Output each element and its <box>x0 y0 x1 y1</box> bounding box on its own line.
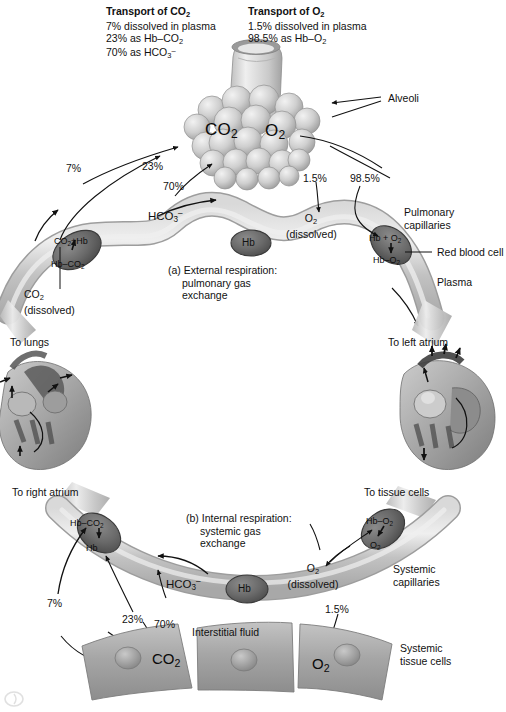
pct-98-5-upper: 98.5% <box>350 172 380 185</box>
o2-fact-2: 98.5% as Hb–O2 <box>248 32 326 48</box>
rbc-lower-left-bottom: Hb <box>86 543 98 553</box>
gas-label-o2: O2 <box>265 121 285 142</box>
to-left-atrium-label: To left atrium <box>388 336 448 349</box>
rbc-lower-right-top: Hb–O2 <box>366 516 393 527</box>
interstitial-fluid-label: Interstitial fluid <box>192 626 259 639</box>
co2-fact-3: 70% as HCO3– <box>106 45 176 63</box>
pct-70-upper: 70% <box>163 180 184 193</box>
respiration-diagram: Transport of CO2 Transport of O2 7% diss… <box>0 0 506 712</box>
rbc-upper-right-top: Hb + O2 <box>369 233 401 244</box>
title-transport-o2: Transport of O2 <box>248 5 324 21</box>
to-right-atrium-label: To right atrium <box>12 486 79 499</box>
gas-label-co2: CO2 <box>205 120 238 141</box>
o2-fact-1: 1.5% dissolved in plasma <box>248 20 366 33</box>
pct-70-lower: 70% <box>154 618 175 631</box>
bicarbonate-upper: HCO3– <box>148 208 183 226</box>
rbc-upper-left-top: CO2+Hb <box>54 236 88 247</box>
rbc-upper-right-bottom: Hb–O2 <box>373 255 400 266</box>
pct-7-upper: 7% <box>66 162 81 175</box>
corner-mark-graphic <box>5 692 23 706</box>
tissue-o2-label: O2 <box>312 655 330 674</box>
rbc-lower-left-top: Hb–CO2 <box>70 518 104 529</box>
red-blood-cell-label: Red blood cell <box>437 246 504 259</box>
rbc-upper-left-bottom: Hb–CO2 <box>51 259 85 270</box>
heart-right-graphic <box>400 344 495 470</box>
rbc-lower-right-bottom: O2 <box>370 540 381 551</box>
rbc-upper-center-label: Hb <box>242 237 255 248</box>
o2-dissolved-lower: O2(dissolved) <box>286 562 340 591</box>
diagram-graphics <box>0 0 506 712</box>
systemic-tissue-cells-label: Systemictissue cells <box>400 642 451 667</box>
title-transport-co2: Transport of CO2 <box>106 5 190 21</box>
to-tissue-cells-label: To tissue cells <box>364 486 429 499</box>
bicarbonate-lower: HCO3– <box>166 576 201 594</box>
pulmonary-capillaries-label: Pulmonarycapillaries <box>404 206 454 231</box>
pct-1-5-lower: 1.5% <box>325 603 349 616</box>
plasma-label: Plasma <box>437 276 472 289</box>
tissue-co2-label: CO2 <box>152 650 180 669</box>
caption-panel-b: (b) Internal respiration:systemic gasexc… <box>186 512 292 550</box>
to-lungs-label: To lungs <box>10 336 49 349</box>
caption-panel-a: (a) External respiration:pulmonary gasex… <box>168 264 277 302</box>
rbc-lower-center-label: Hb <box>238 583 251 594</box>
heart-left-graphic <box>0 354 91 470</box>
pct-23-upper: 23% <box>142 160 163 173</box>
o2-dissolved-upper: O2(dissolved) <box>286 212 336 241</box>
co2-fact-1: 7% dissolved in plasma <box>106 20 216 33</box>
alveoli-label: Alveoli <box>388 92 419 105</box>
systemic-capillaries-label: Systemiccapillaries <box>393 563 440 588</box>
pct-7-lower: 7% <box>47 597 62 610</box>
co2-dissolved-upper: CO2(dissolved) <box>24 288 75 317</box>
pct-1-5-upper: 1.5% <box>303 172 327 185</box>
pct-23-lower: 23% <box>122 613 143 626</box>
